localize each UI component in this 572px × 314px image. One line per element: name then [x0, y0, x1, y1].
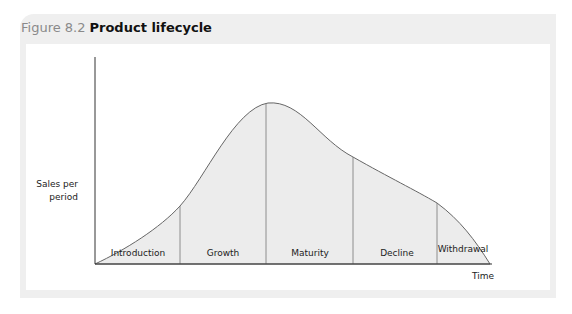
stage-label-withdrawal: Withdrawal — [438, 244, 489, 254]
y-axis-label-line2: period — [49, 192, 78, 202]
y-axis-label-line1: Sales per — [36, 179, 78, 189]
stage-label-decline: Decline — [380, 248, 414, 258]
lifecycle-chart: Sales per period Introduction Growth Mat… — [0, 0, 572, 314]
stage-label-maturity: Maturity — [291, 248, 329, 258]
stage-label-introduction: Introduction — [111, 248, 166, 258]
x-axis-label: Time — [471, 271, 494, 281]
stage-label-growth: Growth — [207, 248, 240, 258]
sales-area — [95, 103, 490, 264]
